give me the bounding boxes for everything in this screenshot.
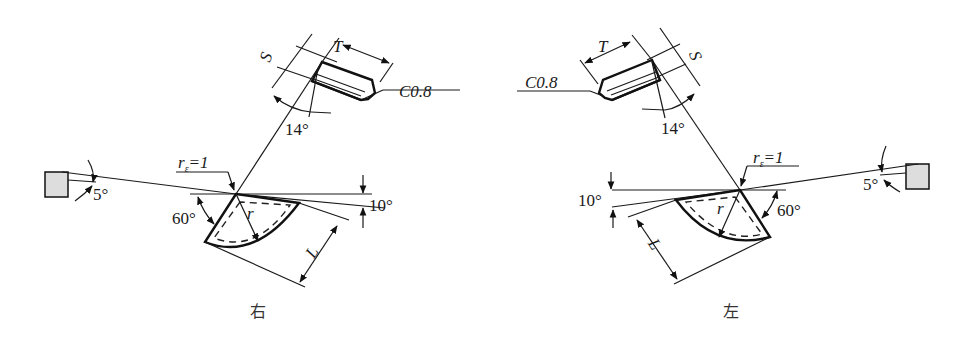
- figure-right-hand-tool: T S C0.8 14° 5° rε=1 10° r 60° L: [45, 34, 460, 321]
- nose-radius-label: rε=1: [753, 148, 784, 169]
- figure-left-hand-tool: T S C0.8 14° 5° rε=1 10° r 60° L: [517, 28, 929, 321]
- caption-left: 左: [723, 302, 739, 321]
- chamfer-label: C0.8: [525, 73, 558, 92]
- chamfer-label: C0.8: [399, 82, 432, 101]
- dim-t-label: T: [598, 37, 609, 56]
- insert-detail: [517, 28, 740, 190]
- dim-t-label: T: [333, 37, 344, 56]
- angle-14-label: 14°: [285, 120, 309, 139]
- angle-10-label: 10°: [369, 196, 393, 215]
- grinding-wheel: [45, 172, 68, 197]
- radius-r-label: r: [717, 199, 724, 218]
- dim-s-label: S: [256, 49, 277, 64]
- grinding-wheel: [906, 164, 929, 189]
- angle-5-label: 5°: [93, 185, 108, 204]
- angle-10-label: 10°: [578, 191, 602, 210]
- angle-14-label: 14°: [661, 119, 685, 138]
- angle-60-label: 60°: [777, 201, 801, 220]
- angle-5-label: 5°: [863, 175, 878, 194]
- dim-s-label: S: [685, 48, 706, 63]
- tool-drawing: T S C0.8 14° 5° rε=1 10° r 60° L: [0, 0, 970, 347]
- dim-l-label: L: [301, 243, 323, 262]
- angle-60-label: 60°: [172, 209, 196, 228]
- radius-r-label: r: [247, 204, 254, 223]
- dim-l-label: L: [643, 234, 665, 253]
- caption-right: 右: [250, 302, 266, 321]
- nose-radius-label: rε=1: [178, 153, 209, 174]
